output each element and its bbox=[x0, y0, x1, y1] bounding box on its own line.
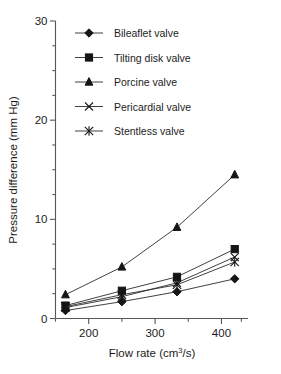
series-polyline bbox=[65, 249, 234, 306]
series-pericardial-valve bbox=[61, 253, 238, 312]
x-axis-title-tail: /s) bbox=[183, 347, 196, 359]
legend-item[interactable]: Bileaflet valve bbox=[75, 27, 179, 39]
y-axis-ticks bbox=[50, 21, 56, 319]
triangle-marker-icon bbox=[173, 223, 181, 231]
triangle-marker-icon bbox=[231, 170, 239, 178]
y-axis-tick-label: 30 bbox=[35, 15, 48, 27]
legend-item[interactable]: Porcine valve bbox=[75, 76, 177, 88]
series-tilting-disk-valve bbox=[62, 245, 238, 309]
y-axis-tick-label: 10 bbox=[35, 213, 48, 225]
line-chart-canvas: 0102030 200300400 Bileaflet valveTilting… bbox=[0, 0, 281, 374]
legend-item-label: Pericardial valve bbox=[114, 101, 191, 113]
series-porcine-valve bbox=[62, 170, 239, 298]
y-axis-tick-labels: 0102030 bbox=[35, 15, 48, 325]
legend-item[interactable]: Pericardial valve bbox=[75, 101, 191, 113]
square-marker-icon bbox=[173, 273, 180, 280]
asterisk-marker-icon bbox=[173, 280, 181, 290]
legend-item[interactable]: Stentless valve bbox=[75, 125, 185, 137]
legend-item[interactable]: Tilting disk valve bbox=[75, 52, 191, 64]
data-series-group bbox=[61, 170, 239, 314]
y-axis-tick-label: 0 bbox=[41, 313, 47, 325]
square-marker-icon bbox=[231, 245, 238, 252]
x-axis-tick-label: 200 bbox=[79, 327, 98, 339]
legend-item-label: Stentless valve bbox=[114, 125, 185, 137]
chart-legend: Bileaflet valveTilting disk valvePorcine… bbox=[75, 27, 191, 137]
x-axis-title-base: Flow rate (cm bbox=[109, 347, 179, 359]
legend-item-label: Porcine valve bbox=[114, 76, 177, 88]
legend-item-label: Bileaflet valve bbox=[114, 27, 179, 39]
series-bileaflet-valve bbox=[61, 275, 239, 315]
x-axis-tick-label: 300 bbox=[145, 327, 164, 339]
diamond-marker-icon bbox=[231, 275, 239, 283]
x-axis-tick-labels: 200300400 bbox=[79, 327, 231, 339]
y-axis-title: Pressure difference (mm Hg) bbox=[7, 96, 19, 244]
x-axis-ticks bbox=[56, 319, 242, 325]
series-polyline bbox=[65, 175, 234, 295]
x-axis-title: Flow rate (cm3/s) bbox=[109, 346, 196, 359]
diamond-marker-icon bbox=[85, 29, 93, 37]
triangle-marker-icon bbox=[62, 290, 70, 298]
chart-figure: 0102030 200300400 Bileaflet valveTilting… bbox=[0, 0, 281, 374]
x-axis-tick-label: 400 bbox=[212, 327, 231, 339]
legend-item-label: Tilting disk valve bbox=[114, 52, 191, 64]
triangle-marker-icon bbox=[85, 78, 93, 86]
square-marker-icon bbox=[85, 54, 92, 61]
triangle-marker-icon bbox=[118, 263, 126, 271]
y-axis-tick-label: 20 bbox=[35, 114, 48, 126]
asterisk-marker-icon bbox=[231, 257, 239, 267]
